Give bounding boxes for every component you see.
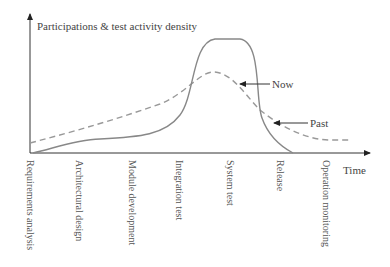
phase-integration-test: Integration test xyxy=(174,160,185,220)
past-label: Past xyxy=(310,117,328,129)
phase-module-development: Module development xyxy=(127,160,138,245)
phase-requirements-analysis: Requirements analysis xyxy=(25,160,36,250)
diagram-canvas: Participations & test activity density N… xyxy=(0,0,390,267)
phase-system-test: System test xyxy=(225,160,236,206)
phase-architectural-design: Architectural design xyxy=(74,160,85,241)
now-curve xyxy=(33,39,293,153)
past-curve xyxy=(30,72,350,143)
phase-release: Release xyxy=(275,160,286,192)
x-axis-label: Time xyxy=(343,164,366,176)
phase-operation-monitoring: Operation monitoring xyxy=(321,160,332,247)
now-label: Now xyxy=(272,78,293,90)
y-axis-label: Participations & test activity density xyxy=(37,20,198,32)
